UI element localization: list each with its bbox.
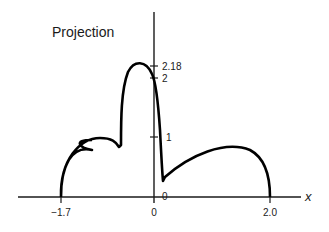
y-tick-label: 2 (162, 73, 168, 84)
x-tick-label: 2.0 (263, 207, 277, 218)
projection-chart: Projection x −1.7 0 2.0 0 1 2 2.18 (0, 0, 329, 232)
x-tick-label: 0 (151, 207, 157, 218)
y-tick-label: 2.18 (162, 61, 182, 72)
chart-title: Projection (52, 24, 114, 40)
y-tick-label: 0 (162, 191, 168, 202)
x-axis-label: x (304, 189, 312, 204)
x-tick-label: −1.7 (51, 207, 71, 218)
y-tick-label: 1 (166, 132, 172, 143)
